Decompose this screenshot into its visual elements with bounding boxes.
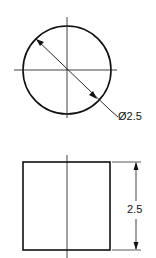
arrowhead-lower <box>89 91 97 99</box>
height-label: 2.5 <box>127 204 142 215</box>
diameter-label: Ø2.5 <box>118 111 142 122</box>
leader-elbow <box>110 110 118 117</box>
dimension-arrow-down <box>134 242 139 250</box>
technical-drawing <box>0 0 156 258</box>
top-view <box>14 17 118 118</box>
diameter-leader-line <box>36 39 110 110</box>
dimension-arrow-up <box>134 162 139 170</box>
rectangle-outline <box>23 162 110 250</box>
front-view <box>23 155 141 258</box>
